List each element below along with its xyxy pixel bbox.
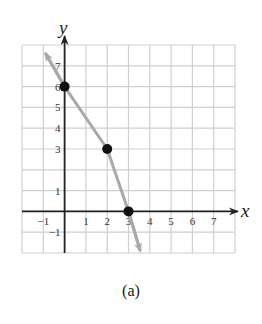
series-arrow-end (129, 211, 141, 251)
x-tick-label: 5 (168, 215, 174, 227)
x-axis-label: x (240, 200, 250, 221)
y-tick-label: 1 (55, 185, 61, 197)
y-tick-label: 4 (55, 122, 61, 134)
y-tick-label: −1 (49, 226, 61, 238)
x-tick-label: 6 (190, 215, 196, 227)
x-tick-label: 4 (147, 215, 153, 227)
data-point (124, 206, 134, 216)
x-tick-label: 1 (83, 215, 89, 227)
y-tick-label: 3 (55, 143, 61, 155)
data-point (102, 144, 112, 154)
x-tick-label: 2 (104, 215, 110, 227)
x-tick-label: 7 (211, 215, 217, 227)
x-tick-label: −1 (37, 215, 49, 227)
figure-caption: (a) (0, 282, 262, 300)
data-point (60, 82, 70, 92)
chart: −11234567−1134567 x y (0, 0, 262, 280)
y-axis-label: y (57, 17, 68, 38)
y-tick-label: 5 (55, 101, 61, 113)
